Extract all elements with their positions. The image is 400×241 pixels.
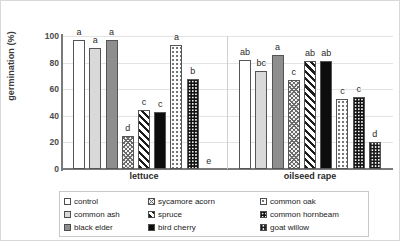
y-tick-label: 60	[33, 84, 59, 94]
legend-item[interactable]: common oak	[260, 195, 370, 208]
significance-label: d	[125, 123, 130, 133]
significance-label: c	[158, 99, 163, 109]
chart-figure: germination (%) 100806040200 aaadccabeab…	[0, 0, 400, 241]
legend-item[interactable]: bird cherry	[148, 221, 260, 234]
bar	[106, 40, 118, 169]
axes: aaadccabeabbcacababccd	[61, 36, 393, 169]
legend-item[interactable]: control	[64, 195, 148, 208]
y-tick-label: 0	[33, 164, 59, 174]
y-tick-label: 80	[33, 58, 59, 68]
legend-swatch-icon	[64, 198, 71, 205]
y-axis-title: germination (%)	[6, 26, 16, 106]
y-tick-label: 20	[33, 137, 59, 147]
bar	[187, 79, 199, 169]
significance-label: a	[174, 32, 179, 42]
bar	[154, 112, 166, 169]
significance-label: ab	[240, 47, 250, 57]
bar	[369, 142, 381, 169]
bar	[255, 71, 267, 169]
x-category-label: lettuce	[129, 171, 158, 181]
y-axis-line	[61, 34, 63, 171]
significance-label: bc	[257, 58, 267, 68]
significance-label: c	[292, 67, 297, 77]
significance-label: ab	[321, 48, 331, 58]
legend-swatch-icon	[148, 198, 155, 205]
chart-legend: controlsycamore acorncommon oakcommon as…	[59, 191, 369, 237]
bar	[89, 48, 101, 169]
significance-label: a	[275, 42, 280, 52]
legend-label: spruce	[158, 210, 182, 219]
legend-label: common ash	[74, 210, 120, 219]
significance-label: e	[206, 156, 211, 166]
x-category-label: oilseed rape	[284, 171, 337, 181]
bar	[170, 45, 182, 169]
significance-label: d	[372, 129, 377, 139]
bar	[239, 60, 251, 169]
legend-label: common oak	[270, 197, 316, 206]
legend-item[interactable]: common hornbeam	[260, 208, 370, 221]
significance-label: b	[190, 66, 195, 76]
legend-label: sycamore acorn	[158, 197, 215, 206]
legend-item[interactable]: black elder	[64, 221, 148, 234]
legend-label: bird cherry	[158, 223, 196, 232]
bar	[304, 61, 316, 169]
significance-label: a	[93, 35, 98, 45]
group-divider	[227, 36, 228, 169]
bar	[73, 40, 85, 169]
legend-item[interactable]: goat willow	[260, 221, 370, 234]
significance-label: c	[356, 84, 361, 94]
significance-label: a	[109, 27, 114, 37]
legend-swatch-icon	[64, 211, 71, 218]
legend-item[interactable]: common ash	[64, 208, 148, 221]
bar	[353, 97, 365, 169]
significance-label: a	[77, 27, 82, 37]
plot-area: germination (%) 100806040200 aaadccabeab…	[1, 1, 400, 187]
significance-label: c	[340, 86, 345, 96]
legend-label: goat willow	[270, 223, 309, 232]
y-tick-label: 40	[33, 111, 59, 121]
y-axis-ticks: 100806040200	[31, 29, 59, 177]
legend-swatch-icon	[148, 224, 155, 231]
legend-label: common hornbeam	[270, 210, 339, 219]
bar	[138, 110, 150, 169]
legend-swatch-icon	[64, 224, 71, 231]
bar	[122, 136, 134, 169]
legend-swatch-icon	[260, 224, 267, 231]
bar	[336, 99, 348, 169]
legend-item[interactable]: spruce	[148, 208, 260, 221]
significance-label: ab	[305, 48, 315, 58]
legend-swatch-icon	[148, 211, 155, 218]
bar	[272, 55, 284, 169]
bar	[320, 61, 332, 169]
legend-swatch-icon	[260, 198, 267, 205]
legend-label: control	[74, 197, 98, 206]
significance-label: c	[142, 97, 147, 107]
y-tick-label: 100	[33, 31, 59, 41]
bar	[288, 80, 300, 169]
legend-label: black elder	[74, 223, 113, 232]
legend-item[interactable]: sycamore acorn	[148, 195, 260, 208]
legend-swatch-icon	[260, 211, 267, 218]
